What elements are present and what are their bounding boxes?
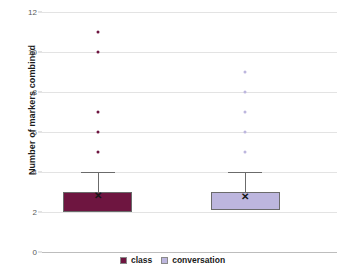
gridline-2: 2 <box>42 212 337 213</box>
legend-swatch-class <box>120 257 127 264</box>
legend-item-class[interactable]: class <box>120 255 152 265</box>
y-tick-mark-4 <box>38 172 42 173</box>
y-tick-mark-2 <box>38 212 42 213</box>
boxplot-chart: Number of markers combined 024681012 ✕✕ … <box>0 0 345 275</box>
legend-label-conversation: conversation <box>172 255 225 265</box>
y-tick-mark-0 <box>38 252 42 253</box>
outlier-point-class-7 <box>96 111 99 114</box>
outlier-point-class-10 <box>96 51 99 54</box>
gridline-6: 6 <box>42 132 337 133</box>
legend-label-class: class <box>131 255 152 265</box>
y-tick-mark-8 <box>38 92 42 93</box>
gridline-10: 10 <box>42 52 337 53</box>
outlier-point-class-11 <box>96 31 99 34</box>
mean-marker-conversation: ✕ <box>241 192 249 202</box>
gridline-0: 0 <box>42 252 337 253</box>
y-tick-mark-10 <box>38 52 42 53</box>
legend-item-conversation[interactable]: conversation <box>161 255 225 265</box>
gridline-8: 8 <box>42 92 337 93</box>
y-tick-mark-12 <box>38 12 42 13</box>
outlier-point-class-5 <box>96 151 99 154</box>
y-tick-mark-6 <box>38 132 42 133</box>
outlier-point-conversation-8 <box>244 91 247 94</box>
gridline-12: 12 <box>42 12 337 13</box>
chart-legend: classconversation <box>0 255 345 265</box>
whisker-cap-conversation <box>228 172 262 173</box>
y-tick-label-8: 8 <box>33 88 37 97</box>
outlier-point-conversation-5 <box>244 151 247 154</box>
y-tick-label-12: 12 <box>28 8 37 17</box>
outlier-point-class-6 <box>96 131 99 134</box>
legend-swatch-conversation <box>161 257 168 264</box>
mean-marker-class: ✕ <box>94 191 102 201</box>
outlier-point-conversation-9 <box>244 71 247 74</box>
outlier-point-conversation-6 <box>244 131 247 134</box>
y-tick-label-4: 4 <box>33 168 37 177</box>
outlier-point-conversation-7 <box>244 111 247 114</box>
y-tick-label-6: 6 <box>33 128 37 137</box>
y-tick-label-2: 2 <box>33 208 37 217</box>
plot-area: 024681012 ✕✕ <box>42 12 337 252</box>
whisker-cap-class <box>81 172 115 173</box>
y-tick-label-10: 10 <box>28 48 37 57</box>
